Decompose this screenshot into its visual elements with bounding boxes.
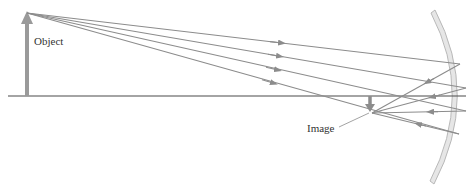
incident-ray-2 — [27, 13, 466, 88]
incident-ray-1 — [27, 13, 460, 64]
reflected-ray-1 — [372, 64, 460, 113]
object-arrow — [21, 11, 33, 96]
reflected-ray-4 — [372, 113, 459, 134]
incident-ray-4 — [27, 13, 459, 134]
image-label-leader — [339, 113, 369, 127]
incident-rays — [27, 13, 466, 134]
object-label: Object — [34, 35, 63, 47]
ray-diagram — [0, 0, 473, 188]
image-label: Image — [307, 122, 334, 134]
